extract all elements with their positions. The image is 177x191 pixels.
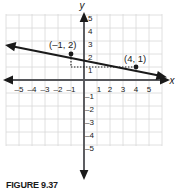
x-tick-label: 5 [147,85,152,94]
x-tick-label: 3 [121,85,126,94]
coordinate-plane-chart: y x –5 –4 –3 –2 –1 1 2 3 4 5 5 4 3 2 1 –… [0,0,177,191]
y-tick-label: 3 [88,40,93,49]
x-tick-label: –5 [15,85,24,94]
x-tick-label: –2 [54,85,63,94]
y-tick-label: 4 [88,27,93,36]
y-axis-arrow-down [80,170,89,180]
y-tick-labels: 5 4 3 2 1 –1 –2 –3 –4 –5 [85,14,94,153]
x-tick-label: –3 [41,85,50,94]
y-tick-label: –1 [85,92,94,101]
y-tick-label: –4 [85,131,94,140]
data-point-marker [134,65,139,70]
y-axis-label: y [79,0,86,11]
point-label-minus1-2: (–1, 2) [49,39,76,50]
y-tick-label: –5 [85,144,94,153]
x-tick-label: –1 [67,85,76,94]
x-tick-label: –4 [28,85,37,94]
y-tick-label: 5 [88,14,93,23]
figure-caption: FIGURE 9.37 [6,180,58,190]
x-tick-label: 2 [108,85,113,94]
y-tick-label: –3 [85,118,94,127]
y-tick-label: –2 [85,105,94,114]
x-axis-arrow-left [3,76,13,85]
point-label-4-1: (4, 1) [124,53,146,64]
data-point-marker [69,52,74,57]
x-tick-label: 4 [134,85,139,94]
figure-container: y x –5 –4 –3 –2 –1 1 2 3 4 5 5 4 3 2 1 –… [0,0,177,191]
x-tick-label: 1 [97,85,102,94]
x-axis-label: x [169,75,176,86]
line-arrow-left [5,42,16,51]
